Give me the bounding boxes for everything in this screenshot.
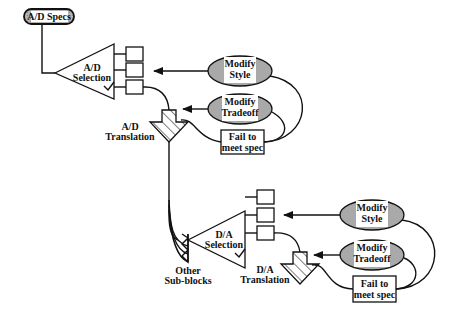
da-modify-tradeoff-label-2: Tradeoff <box>353 253 391 264</box>
ad-modify-style-label-2: Style <box>229 69 251 80</box>
da-option-box-1[interactable] <box>257 190 274 204</box>
da-modify-tradeoff-node: Modify Tradeoff <box>340 240 404 270</box>
da-translation-label-2: Translation <box>240 274 290 285</box>
ad-select-to-translation <box>143 87 169 110</box>
da-option-box-2[interactable] <box>257 208 274 222</box>
da-fail-label-1: Fail to <box>361 278 389 289</box>
da-modify-style-label-1: Modify <box>356 202 387 213</box>
da-option-box-3[interactable] <box>257 226 274 240</box>
ad-selection-label-2: Selection <box>73 72 112 83</box>
da-modify-style-label-2: Style <box>361 213 383 224</box>
ad-option-boxes <box>114 47 143 94</box>
da-selection-label-2: Selection <box>205 239 244 250</box>
other-label-2: Sub-blocks <box>164 275 211 286</box>
ad-specs-node: A/D Specs <box>24 9 74 24</box>
design-flow-diagram: A/D Specs A/D Selection A/D Translation … <box>0 0 461 321</box>
ad-modify-tradeoff-node: Modify Tradeoff <box>208 94 272 124</box>
ad-translation-label-2: Translation <box>105 131 155 142</box>
ad-option-box-3[interactable] <box>126 80 143 94</box>
ad-modify-style-label-1: Modify <box>224 58 255 69</box>
ad-specs-label: A/D Specs <box>27 11 71 22</box>
da-selection-node: D/A Selection <box>188 211 245 268</box>
ad-fail-node: Fail to meet spec <box>221 130 264 154</box>
da-option-boxes <box>245 190 274 240</box>
ad-selection-node: A/D Selection <box>55 44 114 99</box>
ad-modify-style-node: Modify Style <box>208 56 272 86</box>
ad-option-box-1[interactable] <box>126 47 143 61</box>
da-translation-node: D/A Translation <box>240 252 319 285</box>
da-fail-label-2: meet spec <box>354 289 396 300</box>
da-modify-style-node: Modify Style <box>340 200 404 230</box>
da-select-to-translation <box>274 233 300 252</box>
ad-translation-node: A/D Translation <box>105 110 188 142</box>
ad-fail-label-1: Fail to <box>229 131 257 142</box>
ad-modify-tradeoff-label-1: Modify <box>224 96 255 107</box>
da-translation-to-fail <box>312 265 353 289</box>
da-modify-tradeoff-label-1: Modify <box>356 242 387 253</box>
ad-modify-tradeoff-label-2: Tradeoff <box>221 107 259 118</box>
da-fail-node: Fail to meet spec <box>353 276 396 302</box>
ad-option-box-2[interactable] <box>126 63 143 77</box>
specs-connector <box>42 24 55 73</box>
ad-fail-label-2: meet spec <box>222 142 264 153</box>
